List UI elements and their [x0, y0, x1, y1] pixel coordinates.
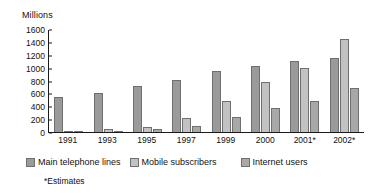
bar [350, 88, 359, 132]
y-axis-tick-label: 800 [31, 77, 49, 86]
legend-label: Internet users [253, 158, 308, 167]
x-axis-tick-label: 1997 [167, 135, 207, 145]
bar-group [285, 30, 324, 132]
legend-item[interactable]: Internet users [241, 158, 308, 167]
bar [212, 71, 221, 132]
y-axis-tick-mark [49, 133, 52, 134]
y-axis-tick-mark [49, 81, 52, 82]
y-axis-tick-label: 400 [31, 103, 49, 112]
y-axis-tick-mark [49, 107, 52, 108]
legend-swatch-icon [26, 158, 35, 167]
bar [153, 129, 162, 132]
x-axis-tick-label: 1993 [88, 135, 128, 145]
bar [182, 118, 191, 132]
bar-group [88, 30, 127, 132]
y-axis-tick-label: 200 [31, 116, 49, 125]
bar [133, 86, 142, 132]
bar [74, 131, 83, 132]
y-axis-tick-mark [49, 68, 52, 69]
bar [104, 129, 113, 132]
y-axis-tick-label: 600 [31, 90, 49, 99]
bar-group [246, 30, 285, 132]
bar-group [167, 30, 206, 132]
bar [310, 101, 319, 132]
legend-item[interactable]: Mobile subscribers [130, 158, 217, 167]
bar-group [325, 30, 364, 132]
x-axis-tick-label: 1995 [127, 135, 167, 145]
bar [300, 68, 309, 132]
bar-group [207, 30, 246, 132]
y-axis-tick-label: 1400 [26, 39, 49, 48]
bar-groups [49, 30, 364, 132]
y-axis-tick-mark [49, 30, 52, 31]
bar [271, 108, 280, 132]
legend-label: Main telephone lines [38, 158, 121, 167]
bar [290, 61, 299, 132]
y-axis-tick-label: 1200 [26, 52, 49, 61]
bar [54, 97, 63, 132]
bar [330, 58, 339, 132]
bar [340, 39, 349, 132]
bar [232, 117, 241, 132]
bar [251, 66, 260, 132]
x-axis-labels: 1991199319951997199920002001*2002* [48, 135, 364, 145]
y-axis-tick-mark [49, 42, 52, 43]
x-axis-tick-label: 2002* [325, 135, 365, 145]
y-axis-tick-mark [49, 94, 52, 95]
plot-area: 02004006008001000120014001600 [48, 30, 364, 133]
bar [143, 127, 152, 132]
bar [192, 126, 201, 132]
x-axis-tick-label: 2001* [285, 135, 325, 145]
y-axis-tick-label: 1000 [26, 64, 49, 73]
legend-swatch-icon [241, 158, 250, 167]
legend-label: Mobile subscribers [142, 158, 217, 167]
x-axis-tick-label: 2000 [246, 135, 286, 145]
chart-figure: Millions 02004006008001000120014001600 1… [0, 0, 376, 193]
x-axis-tick-label: 1991 [48, 135, 88, 145]
bar [114, 131, 123, 132]
x-axis-tick-label: 1999 [206, 135, 246, 145]
chart-footnote: *Estimates [44, 176, 85, 186]
y-axis-tick-mark [49, 55, 52, 56]
bar [64, 131, 73, 132]
y-axis-title: Millions [22, 10, 53, 20]
bar [222, 101, 231, 132]
y-axis-tick-label: 1600 [26, 26, 49, 35]
chart-legend: Main telephone linesMobile subscribersIn… [26, 158, 366, 167]
bar-group [128, 30, 167, 132]
bar [172, 80, 181, 132]
y-axis-tick-mark [49, 120, 52, 121]
legend-swatch-icon [130, 158, 139, 167]
bar [261, 82, 270, 132]
legend-item[interactable]: Main telephone lines [26, 158, 121, 167]
bar-group [49, 30, 88, 132]
bar [94, 93, 103, 132]
